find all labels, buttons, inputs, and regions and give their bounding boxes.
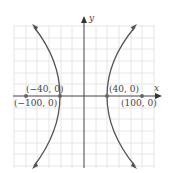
focus-left-label: (−100, 0)	[14, 99, 57, 108]
vertex-left-point	[58, 94, 62, 98]
x-axis-label: x	[154, 84, 159, 93]
focus-right-label: (100, 0)	[121, 99, 157, 108]
vertex-right-label: (40, 0)	[109, 85, 139, 94]
y-axis-arrow-icon	[81, 16, 87, 23]
vertex-right-point	[105, 94, 109, 98]
y-axis-label: y	[89, 14, 94, 23]
axes	[13, 20, 160, 168]
vertex-left-label: (−40, 0)	[26, 85, 63, 94]
